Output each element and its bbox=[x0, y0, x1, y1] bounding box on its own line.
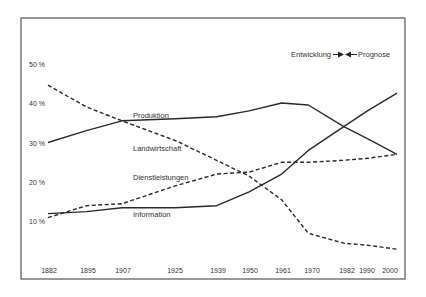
x-tick-1970: 1970 bbox=[304, 267, 320, 274]
y-tick-20: 20 % bbox=[29, 179, 45, 186]
series-label-information: Information bbox=[133, 210, 171, 219]
x-tick-1961: 1961 bbox=[275, 267, 291, 274]
series-label-landwirtschaft: Landwirtschaft bbox=[133, 144, 182, 153]
legend-prognose: Prognose bbox=[358, 50, 390, 59]
chart-frame bbox=[21, 18, 405, 279]
series-label-dienstleistungen: Dienstleistungen bbox=[133, 173, 188, 182]
x-tick-2000: 2000 bbox=[382, 267, 398, 274]
y-tick-40: 40 % bbox=[29, 100, 45, 107]
x-tick-1895: 1895 bbox=[80, 267, 96, 274]
x-tick-1882: 1882 bbox=[41, 267, 57, 274]
legend-entwicklung: Entwicklung bbox=[291, 50, 331, 59]
y-tick-10: 10 % bbox=[29, 218, 45, 225]
y-tick-30: 30 % bbox=[29, 140, 45, 147]
x-tick-1982: 1982 bbox=[339, 267, 355, 274]
x-tick-1950: 1950 bbox=[242, 267, 258, 274]
x-axis-labels: 1882 1895 1907 1925 1939 1950 1961 1970 … bbox=[41, 267, 398, 274]
x-tick-1990: 1990 bbox=[359, 267, 375, 274]
x-tick-1939: 1939 bbox=[210, 267, 226, 274]
line-chart: 50 % 40 % 30 % 20 % 10 % 1882 1895 1907 … bbox=[0, 0, 426, 297]
x-tick-1907: 1907 bbox=[115, 267, 131, 274]
x-tick-1925: 1925 bbox=[167, 267, 183, 274]
y-tick-50: 50 % bbox=[29, 61, 45, 68]
series-label-produktion: Produktion bbox=[133, 111, 169, 120]
